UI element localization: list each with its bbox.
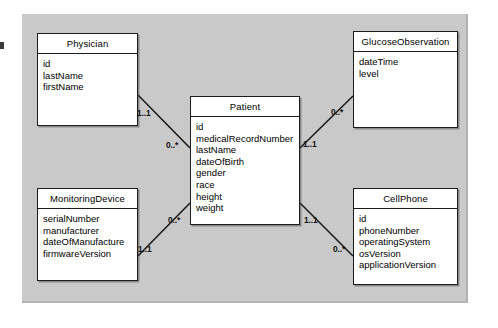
attribute-item: height	[196, 191, 299, 203]
class-box-patient[interactable]: Patient id medicalRecordNumber lastName …	[190, 96, 300, 225]
attribute-item: phoneNumber	[359, 225, 457, 237]
multiplicity-patient-end-cellphone: 1..1	[304, 215, 318, 225]
attribute-item: dateOfBirth	[196, 156, 299, 168]
attribute-item: dateTime	[359, 56, 457, 68]
attribute-item: weight	[196, 202, 299, 214]
class-box-glucoseobservation[interactable]: GlucoseObservation dateTime level	[353, 31, 458, 128]
association-line-physician-patient	[138, 95, 190, 148]
attribute-item: id	[359, 213, 457, 225]
multiplicity-cellphone-end: 0..*	[333, 244, 345, 254]
class-attributes-monitoringdevice: serialNumber manufacturer dateOfManufact…	[38, 209, 137, 262]
class-name-patient: Patient	[191, 97, 299, 117]
diagram-canvas: Physician id lastName firstName GlucoseO…	[0, 0, 498, 328]
attribute-item: osVersion	[359, 248, 457, 260]
class-box-physician[interactable]: Physician id lastName firstName	[37, 33, 138, 126]
multiplicity-glucoseobservation-end: 0..*	[331, 107, 343, 117]
multiplicity-monitoringdevice-end: 1..1	[138, 244, 152, 254]
attribute-item: id	[196, 121, 299, 133]
class-name-monitoringdevice: MonitoringDevice	[38, 189, 137, 209]
attribute-item: dateOfManufacture	[43, 236, 137, 248]
attribute-item: applicationVersion	[359, 259, 457, 271]
attribute-item: medicalRecordNumber	[196, 133, 299, 145]
attribute-item: lastName	[43, 70, 137, 82]
attribute-item: id	[43, 58, 137, 70]
multiplicity-patient-end-physician: 0..*	[166, 140, 178, 150]
class-attributes-cellphone: id phoneNumber operatingSystem osVersion…	[354, 209, 457, 274]
attribute-item: manufacturer	[43, 225, 137, 237]
class-attributes-physician: id lastName firstName	[38, 54, 137, 96]
class-box-monitoringdevice[interactable]: MonitoringDevice serialNumber manufactur…	[37, 188, 138, 281]
class-name-glucoseobservation: GlucoseObservation	[354, 32, 457, 52]
attribute-item: race	[196, 179, 299, 191]
attribute-item: firmwareVersion	[43, 248, 137, 260]
class-attributes-glucoseobservation: dateTime level	[354, 52, 457, 82]
attribute-item: gender	[196, 167, 299, 179]
class-name-cellphone: CellPhone	[354, 189, 457, 209]
attribute-item: operatingSystem	[359, 236, 457, 248]
attribute-item: firstName	[43, 81, 137, 93]
class-attributes-patient: id medicalRecordNumber lastName dateOfBi…	[191, 117, 299, 217]
attribute-item: lastName	[196, 144, 299, 156]
class-name-physician: Physician	[38, 34, 137, 54]
multiplicity-physician-end: 1..1	[137, 108, 151, 118]
multiplicity-patient-end-glucose: 1..1	[303, 139, 317, 149]
multiplicity-patient-end-monitoringdevice: 0..*	[168, 215, 180, 225]
attribute-item: level	[359, 68, 457, 80]
class-box-cellphone[interactable]: CellPhone id phoneNumber operatingSystem…	[353, 188, 458, 285]
attribute-item: serialNumber	[43, 213, 137, 225]
